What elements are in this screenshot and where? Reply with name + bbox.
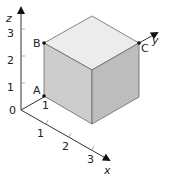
x-tick-2: 2	[62, 140, 69, 153]
origin-label: 0	[9, 104, 16, 117]
y-axis-label: y	[151, 34, 159, 47]
z-tick-2: 2	[7, 54, 14, 67]
point-a-label: A	[33, 84, 41, 97]
z-tick-1: 1	[7, 81, 14, 94]
point-a	[42, 94, 46, 98]
z-tick-3: 3	[7, 27, 14, 40]
cube	[44, 16, 139, 124]
point-b	[42, 41, 46, 45]
y-axis-origin-segment	[21, 97, 44, 110]
point-b-label: B	[33, 37, 41, 50]
z-axis-label: z	[5, 12, 12, 25]
x-tick-1: 1	[37, 127, 44, 140]
x-tick-3: 3	[87, 153, 94, 166]
point-c-label: C	[141, 42, 149, 55]
cube-diagram: z 3 2 1 0 A 1 B C y 1 2 3 x	[0, 0, 169, 182]
y-tick-1: 1	[42, 99, 49, 112]
x-axis-label: x	[103, 164, 111, 177]
